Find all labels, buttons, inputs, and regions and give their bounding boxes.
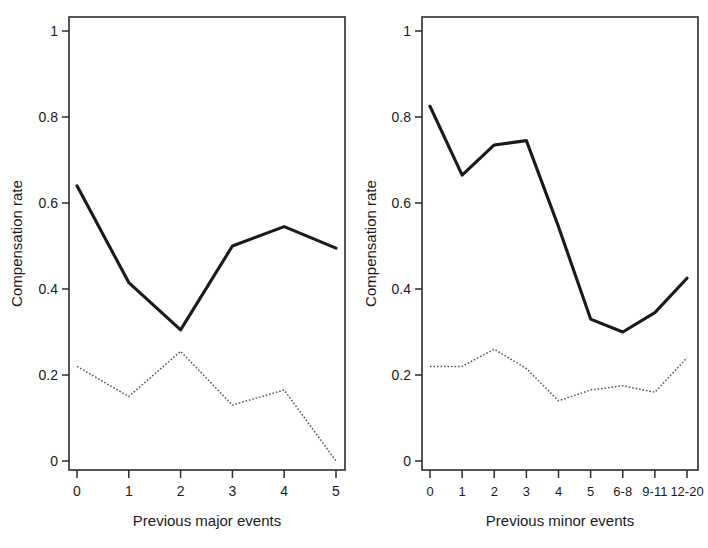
- y-tick-label: 0.2: [39, 367, 59, 383]
- y-tick-label: 1: [50, 23, 58, 39]
- y-tick-label: 0.2: [392, 367, 412, 383]
- chart-panel-right: 00.20.40.60.810123456-89-1112-20Previous…: [354, 0, 708, 548]
- y-tick-label: 0.8: [39, 109, 59, 125]
- x-tick-label: 9-11: [642, 484, 667, 499]
- chart-svg-left: 00.20.40.60.81012345Previous major event…: [0, 0, 354, 548]
- y-tick-label: 0.8: [392, 109, 412, 125]
- y-tick-label: 0.4: [392, 281, 412, 297]
- x-axis-title: Previous minor events: [486, 512, 634, 529]
- x-tick-label: 1: [459, 484, 466, 499]
- plot-frame: [422, 17, 698, 470]
- figure-canvas: 00.20.40.60.81012345Previous major event…: [0, 0, 708, 548]
- x-axis-title: Previous major events: [133, 512, 281, 529]
- y-tick-label: 0.6: [392, 195, 412, 211]
- x-tick-label: 1: [125, 483, 133, 499]
- x-tick-label: 4: [555, 484, 562, 499]
- y-tick-label: 0: [403, 453, 411, 469]
- x-tick-label: 5: [332, 483, 340, 499]
- series-line-dotted: [77, 351, 336, 461]
- x-tick-label: 2: [177, 483, 185, 499]
- y-tick-label: 0.6: [39, 195, 59, 211]
- chart-panel-left: 00.20.40.60.81012345Previous major event…: [0, 0, 354, 548]
- y-axis-title: Compensation rate: [8, 180, 25, 307]
- x-tick-label: 5: [587, 484, 594, 499]
- x-tick-label: 0: [426, 484, 433, 499]
- y-tick-label: 0.4: [39, 281, 59, 297]
- x-tick-label: 12-20: [670, 484, 703, 499]
- x-tick-label: 3: [229, 483, 237, 499]
- y-axis-title: Compensation rate: [362, 180, 379, 307]
- chart-svg-right: 00.20.40.60.810123456-89-1112-20Previous…: [354, 0, 708, 548]
- x-tick-label: 6-8: [613, 484, 632, 499]
- plot-frame: [69, 17, 345, 470]
- x-tick-label: 0: [73, 483, 81, 499]
- series-line-solid: [430, 106, 687, 332]
- series-line-dotted: [430, 349, 687, 401]
- series-line-solid: [77, 186, 336, 330]
- x-tick-label: 2: [491, 484, 498, 499]
- x-tick-label: 4: [280, 483, 288, 499]
- x-tick-label: 3: [523, 484, 530, 499]
- y-tick-label: 0: [50, 453, 58, 469]
- y-tick-label: 1: [403, 23, 411, 39]
